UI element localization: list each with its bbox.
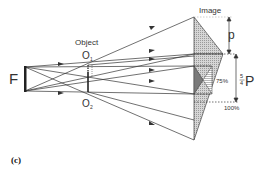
object-label: Object [75, 38, 99, 47]
pct-75-label: 75% [216, 78, 229, 84]
pct-100-label: 100% [224, 105, 240, 111]
o2-label: O [82, 98, 90, 109]
figure-caption: (c) [11, 155, 21, 165]
filament-bar [24, 66, 27, 92]
p-label: p [228, 28, 235, 42]
image-label: Image [199, 6, 222, 15]
fraction-denominator: 4 [240, 80, 243, 86]
light-rays [25, 17, 194, 140]
object-aperture [88, 65, 92, 92]
o1-subscript: 1 [90, 56, 93, 62]
o1-label: O [82, 50, 90, 61]
o2-subscript: 2 [90, 104, 93, 110]
fraction-numerator: 5 [240, 73, 243, 79]
filament-label: F [9, 70, 18, 87]
ray-arrowheads [58, 26, 155, 125]
big-p-label: P [245, 73, 254, 89]
projection-diagram: F Object O 1 O 2 Image p 5 4 P 75% 100% … [0, 0, 264, 171]
